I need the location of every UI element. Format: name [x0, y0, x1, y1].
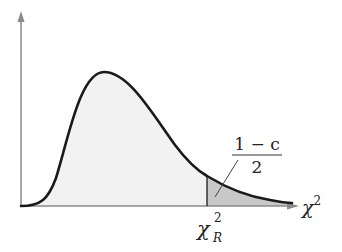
- critical-value-subscript: R: [212, 231, 222, 245]
- x-axis-label: χ2: [300, 194, 321, 218]
- critical-value-label: χ: [195, 217, 211, 241]
- chi-square-diagram: 1 − c 2 χ2 χ 2 R: [0, 0, 342, 252]
- area-label-numerator: 1 − c: [234, 134, 279, 154]
- critical-value-superscript: 2: [214, 211, 222, 225]
- body-region: [21, 72, 207, 206]
- y-axis-arrow-icon: [18, 11, 25, 22]
- area-label-denominator: 2: [252, 157, 263, 177]
